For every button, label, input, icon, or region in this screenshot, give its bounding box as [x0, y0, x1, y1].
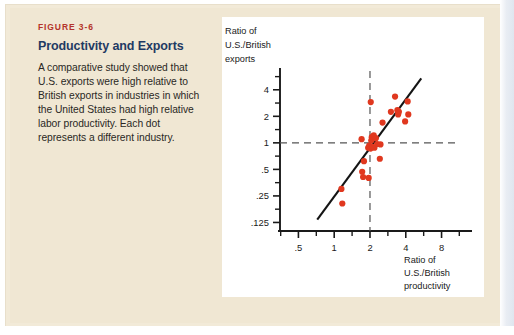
figure-root: FIGURE 3-6 Productivity and Exports A co…	[0, 0, 514, 335]
scatter-point	[360, 174, 366, 180]
scatter-point	[388, 109, 394, 115]
figure-description-text: A comparative study showed that U.S. exp…	[38, 61, 210, 146]
scatter-point	[339, 200, 345, 206]
scatter-point	[373, 135, 379, 141]
x-axis-label: Ratio of U.S./British productivity	[404, 255, 451, 291]
x-axis-ticks: .51248	[281, 231, 460, 253]
x-axis-label-line-0: Ratio of	[404, 255, 436, 265]
scatter-point	[402, 118, 408, 124]
y-tick-label: 1	[264, 137, 269, 148]
scatter-point	[361, 158, 367, 164]
figure-caption-block: FIGURE 3-6 Productivity and Exports A co…	[38, 22, 210, 146]
x-tick-label: 8	[439, 242, 444, 253]
scatter-point	[377, 156, 383, 162]
y-tick-label: 2	[264, 111, 269, 122]
scatter-point	[396, 109, 402, 115]
y-tick-label: .5	[261, 164, 269, 175]
scatter-point	[405, 98, 411, 104]
data-points	[338, 93, 411, 206]
y-axis-label: Ratio of U.S./British exports	[225, 26, 271, 64]
chart-panel: Ratio of U.S./British exports Ratio of U…	[222, 17, 484, 297]
y-axis-label-line-2: exports	[225, 54, 256, 64]
y-axis-label-line-0: Ratio of	[225, 26, 257, 36]
scatter-point	[368, 99, 374, 105]
y-tick-label: .125	[251, 217, 269, 228]
x-axis-label-line-1: U.S./British	[404, 268, 450, 278]
scatter-point	[366, 175, 372, 181]
scatter-point	[377, 141, 383, 147]
scatter-point	[392, 93, 398, 99]
scatter-plot: Ratio of U.S./British exports Ratio of U…	[222, 17, 484, 297]
x-tick-label: 1	[332, 242, 337, 253]
y-tick-label: .25	[256, 190, 269, 201]
figure-title: Productivity and Exports	[38, 39, 210, 53]
x-tick-label: 4	[403, 242, 408, 253]
x-tick-label: 2	[367, 242, 372, 253]
y-tick-label: 4	[264, 84, 269, 95]
scatter-point	[338, 186, 344, 192]
x-axis-label-line-2: productivity	[404, 281, 451, 291]
page-right-gutter	[500, 0, 514, 335]
scatter-point	[379, 119, 385, 125]
y-axis-ticks: .125.25.5124	[251, 77, 280, 228]
scatter-point	[405, 111, 411, 117]
x-tick-label: .5	[295, 242, 303, 253]
y-axis-label-line-1: U.S./British	[225, 40, 271, 50]
page-bottom-gutter	[0, 326, 514, 335]
scatter-point	[359, 169, 365, 175]
scatter-point	[358, 136, 364, 142]
figure-number-label: FIGURE 3-6	[38, 22, 210, 32]
